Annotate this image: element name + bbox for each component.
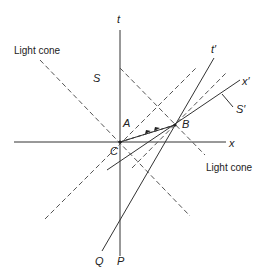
event-b-dot	[173, 123, 176, 126]
event-b-label: B	[182, 119, 189, 130]
x-axis-label: x	[229, 138, 235, 149]
frame-s-prime-label: S′	[236, 104, 245, 115]
x-prime-axis-label: x′	[242, 76, 250, 87]
t-axis-label: t	[117, 14, 120, 25]
s-prime-pointer	[222, 94, 233, 107]
event-a-label: A	[123, 118, 130, 129]
worldline-q-label: Q	[95, 256, 104, 267]
light-cone-b-right	[132, 72, 227, 168]
light-cone-label-top: Light cone	[14, 46, 60, 56]
event-c-dot	[118, 140, 121, 143]
t-prime-axis	[102, 58, 214, 251]
t-prime-axis-label: t′	[211, 44, 216, 55]
worldline-p-label: P	[117, 256, 124, 267]
event-c-label: C	[110, 146, 118, 157]
frame-s-label: S	[93, 73, 100, 84]
spacetime-diagram	[0, 0, 260, 272]
light-cone-label-bottom: Light cone	[206, 163, 252, 173]
